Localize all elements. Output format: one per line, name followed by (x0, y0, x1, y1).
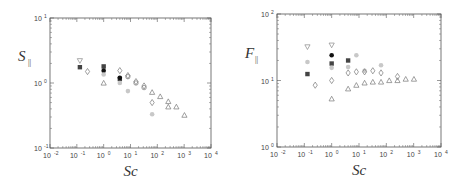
y-axis-label: S (18, 48, 26, 64)
data-point-diamond (313, 82, 317, 88)
data-point-diamond (150, 99, 154, 105)
x-tick-label: 10 (97, 152, 105, 159)
data-point-circle (329, 66, 334, 71)
data-point-circle (346, 65, 351, 70)
data-point-triangle (362, 80, 367, 85)
data-point-diamond (371, 68, 375, 74)
y-tick-label: 10 (34, 145, 42, 152)
x-tick-exponent: 4 (215, 150, 218, 156)
y-tick-exponent: 1 (271, 76, 274, 82)
x-tick-exponent: 2 (390, 149, 393, 155)
y-axis-label: F (244, 45, 255, 61)
data-point-diamond (379, 70, 383, 76)
x-tick-label: 10 (177, 152, 185, 159)
data-point-down-triangle (305, 45, 310, 50)
data-point-diamond (118, 68, 122, 74)
data-point-circle (118, 76, 123, 81)
data-point-diamond (346, 70, 350, 76)
x-tick-exponent: -1 (308, 149, 313, 155)
x-tick-exponent: 0 (336, 149, 339, 155)
y-axis-label-subscript: || (28, 58, 31, 67)
data-point-triangle (174, 104, 179, 109)
data-point-square (78, 65, 82, 69)
data-point-triangle (101, 80, 106, 85)
data-point-triangle (158, 94, 163, 99)
data-point-diamond (85, 68, 89, 74)
x-tick-label: 10 (379, 151, 387, 158)
x-tick-exponent: 1 (135, 150, 138, 156)
x-axis-label: Sc (123, 163, 138, 179)
x-tick-label: 10 (352, 151, 360, 158)
y-tick-label: 10 (261, 78, 269, 85)
data-point-triangle (395, 78, 400, 83)
x-tick-label: 10 (407, 151, 415, 158)
x-tick-exponent: 1 (363, 149, 366, 155)
data-point-triangle (329, 96, 334, 101)
y-tick-exponent: 1 (44, 13, 47, 19)
x-tick-exponent: 0 (108, 150, 111, 156)
data-point-circle (101, 72, 106, 77)
data-point-circle (379, 63, 384, 68)
chart-panel-right: 10-210-1100101102103104100101102ScF|| (244, 9, 448, 178)
x-tick-exponent: -2 (54, 150, 59, 156)
x-tick-exponent: 2 (161, 150, 164, 156)
y-tick-label: 10 (34, 80, 42, 87)
x-tick-label: 10 (204, 152, 212, 159)
data-point-square (305, 72, 309, 76)
data-point-circle (118, 81, 123, 86)
data-point-square (329, 61, 333, 65)
x-tick-exponent: 3 (418, 149, 421, 155)
data-point-diamond (126, 72, 130, 78)
data-point-triangle (182, 113, 187, 118)
data-point-triangle (378, 79, 383, 84)
y-tick-label: 10 (261, 11, 269, 18)
x-tick-label: 10 (270, 151, 278, 158)
data-point-diamond (330, 77, 334, 83)
data-point-triangle (354, 83, 359, 88)
figure: 10-210-110010110210310410-1100101ScS||10… (0, 0, 462, 181)
y-tick-exponent: 0 (44, 78, 47, 84)
data-point-circle (126, 89, 131, 94)
plot-frame (50, 18, 211, 148)
y-tick-exponent: -1 (44, 143, 49, 149)
data-point-triangle (403, 76, 408, 81)
data-point-triangle (346, 86, 351, 91)
x-tick-label: 10 (434, 151, 442, 158)
x-tick-label: 10 (297, 151, 305, 158)
data-point-circle (354, 53, 359, 58)
data-point-triangle (370, 79, 375, 84)
data-point-square (101, 64, 105, 68)
x-tick-exponent: 3 (188, 150, 191, 156)
data-point-down-triangle (329, 43, 334, 48)
x-tick-label: 10 (325, 151, 333, 158)
data-point-triangle (166, 99, 171, 104)
x-tick-exponent: 4 (445, 149, 448, 155)
data-point-square (346, 58, 350, 62)
x-axis-label: Sc (352, 162, 367, 178)
x-tick-exponent: -1 (81, 150, 86, 156)
x-tick-label: 10 (124, 152, 132, 159)
data-point-triangle (411, 76, 416, 81)
x-tick-label: 10 (70, 152, 78, 159)
x-tick-exponent: -2 (281, 149, 286, 155)
data-point-triangle (166, 104, 171, 109)
data-point-down-triangle (77, 59, 82, 64)
chart-panel-left: 10-210-110010110210310410-1100101ScS|| (18, 13, 218, 179)
x-tick-label: 10 (150, 152, 158, 159)
data-point-diamond (354, 69, 358, 75)
data-point-diamond (395, 73, 399, 79)
y-tick-label: 10 (34, 15, 42, 22)
data-point-circle (150, 112, 155, 117)
y-tick-label: 10 (261, 144, 269, 151)
x-tick-label: 10 (43, 152, 51, 159)
data-point-triangle (150, 90, 155, 95)
y-tick-exponent: 0 (271, 142, 274, 148)
y-tick-exponent: 2 (271, 9, 274, 15)
y-axis-label-subscript: || (255, 55, 258, 64)
data-point-triangle (387, 78, 392, 83)
data-point-circle (329, 53, 334, 58)
data-point-circle (305, 60, 310, 65)
